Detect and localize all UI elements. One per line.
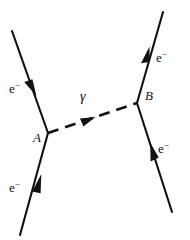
label-vertex-a: A bbox=[33, 131, 41, 144]
electron-charge-superscript: − bbox=[162, 49, 167, 59]
label-outgoing-electron-lower-right: e− bbox=[158, 141, 169, 155]
incoming-electron-lower-left-line bbox=[20, 133, 48, 235]
electron-charge-superscript: − bbox=[15, 80, 20, 90]
label-incoming-electron-lower-left: e− bbox=[9, 180, 20, 194]
outgoing-electron-upper-right-arrow bbox=[141, 47, 150, 64]
electron-charge-superscript: − bbox=[164, 140, 169, 150]
photon-propagator-arrow bbox=[80, 117, 96, 126]
feynman-diagram: e− e− e− e− A B γ bbox=[0, 0, 190, 240]
label-photon: γ bbox=[80, 90, 86, 104]
feynman-diagram-canvas bbox=[0, 0, 190, 240]
label-incoming-electron-upper-left: e− bbox=[9, 81, 20, 95]
label-outgoing-electron-upper-right: e− bbox=[156, 50, 167, 64]
electron-charge-superscript: − bbox=[15, 179, 20, 189]
label-vertex-b: B bbox=[145, 89, 153, 102]
incoming-electron-upper-left-arrow bbox=[24, 79, 36, 96]
